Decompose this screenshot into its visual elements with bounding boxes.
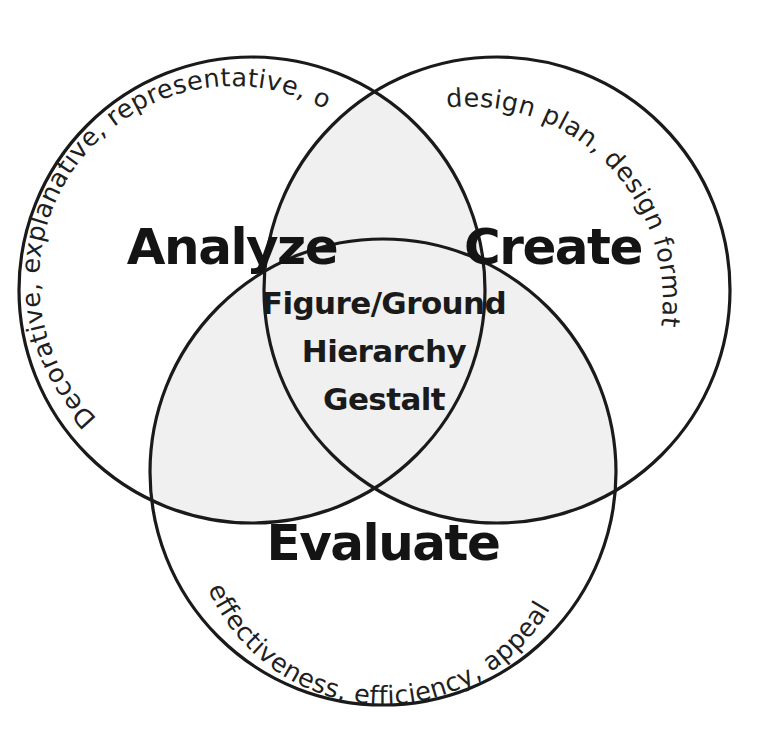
venn-diagram-canvas: Decorative, explanative, representative,…: [0, 0, 757, 740]
label-create: Create: [464, 218, 642, 276]
center-line-figure-ground: Figure/Ground: [262, 285, 506, 321]
evaluate-descriptor-textpath: effectiveness, efficiency, appeal: [202, 578, 556, 710]
label-evaluate: Evaluate: [267, 514, 500, 572]
evaluate-descriptor-text: effectiveness, efficiency, appeal: [202, 578, 556, 710]
venn-diagram-container: Decorative, explanative, representative,…: [0, 0, 757, 740]
center-line-gestalt: Gestalt: [323, 381, 446, 417]
center-line-hierarchy: Hierarchy: [302, 333, 467, 369]
label-analyze: Analyze: [127, 218, 337, 276]
